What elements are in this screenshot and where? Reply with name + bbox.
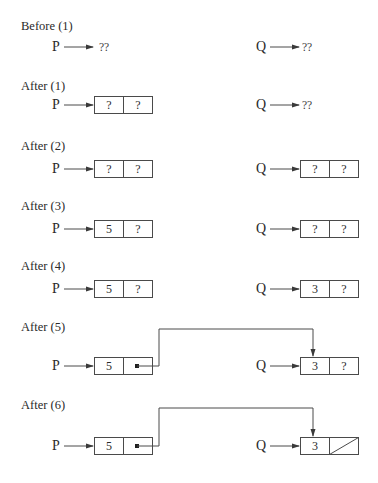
step-label: After (4) (21, 259, 65, 273)
node-next-cell-p: ? (124, 162, 152, 176)
step-label: After (3) (21, 199, 65, 213)
step-label: Before (1) (21, 19, 73, 33)
variable-q-name: Q (256, 161, 266, 177)
node-next-cell-p: ? (124, 282, 152, 296)
step-label: After (5) (21, 320, 65, 334)
node-next-cell-q: ? (330, 359, 358, 373)
node-data-cell-p: ? (95, 162, 123, 176)
variable-p-name: P (52, 358, 60, 374)
node-data-cell-p: 5 (95, 439, 123, 453)
variable-p-name: P (52, 438, 60, 454)
node-data-cell-p: 5 (95, 222, 123, 236)
variable-q-name: Q (256, 358, 266, 374)
node-next-cell-q: ? (330, 162, 358, 176)
variable-q-name: Q (256, 39, 266, 55)
variable-q-name: Q (256, 438, 266, 454)
node-data-cell-q: 3 (301, 439, 329, 453)
link-arrow-p-next-to-q (137, 408, 313, 446)
nil-slash-icon (330, 438, 359, 455)
step-label: After (1) (21, 79, 65, 93)
undefined-value-q: ?? (302, 40, 312, 54)
undefined-value-p: ?? (99, 40, 109, 54)
variable-p-name: P (52, 281, 60, 297)
node-next-cell-q: ? (330, 222, 358, 236)
node-data-cell-q: ? (301, 222, 329, 236)
variable-q-name: Q (256, 281, 266, 297)
step-label: After (2) (21, 139, 65, 153)
variable-p-name: P (52, 97, 60, 113)
node-data-cell-p: ? (95, 98, 123, 112)
node-data-cell-p: 5 (95, 282, 123, 296)
node-next-cell-q: ? (330, 282, 358, 296)
node-next-cell-p: ? (124, 222, 152, 236)
node-data-cell-p: 5 (95, 359, 123, 373)
undefined-value-q: ?? (302, 98, 312, 112)
variable-p-name: P (52, 161, 60, 177)
variable-q-name: Q (256, 221, 266, 237)
node-data-cell-q: 3 (301, 282, 329, 296)
variable-p-name: P (52, 39, 60, 55)
node-next-cell-p: ? (124, 98, 152, 112)
node-data-cell-q: ? (301, 162, 329, 176)
step-label: After (6) (21, 398, 65, 412)
variable-q-name: Q (256, 97, 266, 113)
link-arrow-p-next-to-q (137, 329, 313, 366)
variable-p-name: P (52, 221, 60, 237)
node-data-cell-q: 3 (301, 359, 329, 373)
